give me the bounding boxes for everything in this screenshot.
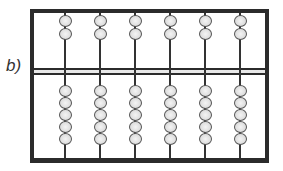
lower-bead xyxy=(234,121,247,133)
lower-bead xyxy=(129,121,142,133)
upper-bead xyxy=(164,28,177,40)
lower-bead xyxy=(129,85,142,97)
upper-bead xyxy=(129,28,142,40)
upper-bead xyxy=(59,28,72,40)
lower-bead xyxy=(199,97,212,109)
lower-bead xyxy=(129,97,142,109)
lower-bead xyxy=(59,109,72,121)
lower-bead xyxy=(59,85,72,97)
lower-bead xyxy=(129,133,142,145)
upper-bead xyxy=(199,15,212,27)
lower-bead xyxy=(94,121,107,133)
lower-bead xyxy=(199,109,212,121)
lower-bead xyxy=(234,97,247,109)
lower-bead xyxy=(164,133,177,145)
lower-bead xyxy=(234,109,247,121)
lower-bead xyxy=(59,97,72,109)
upper-bead xyxy=(94,28,107,40)
upper-bead xyxy=(94,15,107,27)
lower-bead xyxy=(94,97,107,109)
upper-bead xyxy=(59,15,72,27)
upper-bead xyxy=(199,28,212,40)
lower-bead xyxy=(94,85,107,97)
lower-bead xyxy=(199,133,212,145)
lower-bead xyxy=(164,97,177,109)
lower-bead xyxy=(199,85,212,97)
lower-bead xyxy=(234,85,247,97)
abacus-frame xyxy=(30,9,269,163)
lower-bead xyxy=(94,133,107,145)
abacus-divider-bar xyxy=(34,68,265,75)
lower-bead xyxy=(129,109,142,121)
upper-bead xyxy=(234,15,247,27)
lower-bead xyxy=(164,109,177,121)
lower-bead xyxy=(199,121,212,133)
lower-bead xyxy=(59,133,72,145)
lower-bead xyxy=(164,121,177,133)
upper-bead xyxy=(129,15,142,27)
lower-bead xyxy=(94,109,107,121)
figure-label: b) xyxy=(6,56,21,76)
upper-bead xyxy=(234,28,247,40)
lower-bead xyxy=(234,133,247,145)
upper-bead xyxy=(164,15,177,27)
lower-bead xyxy=(164,85,177,97)
lower-bead xyxy=(59,121,72,133)
